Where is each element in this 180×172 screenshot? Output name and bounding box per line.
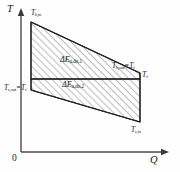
x-axis-label: Q (150, 155, 157, 166)
label-exergy-lower-sub: u,dis,2 (72, 83, 84, 89)
label-cold-outlet-eq-sub: f (25, 87, 26, 92)
label-exergy-upper-sub: u,dis,1 (70, 58, 82, 64)
label-exergy-lower-delta: ΔE (62, 80, 72, 89)
label-hot-outlet-equals: =T (124, 61, 133, 70)
y-axis (18, 8, 24, 152)
t-q-diagram: T Q 0 Th,in Th,out=Tf Tf Tc,out=Tf Tc,in… (0, 0, 180, 172)
y-axis-label: T (7, 4, 13, 15)
label-cold-outlet-sub: c,out (8, 87, 16, 92)
label-tf-right-sub: f (146, 74, 147, 79)
label-cold-outlet-temperature: Tc,out=Tf (4, 84, 26, 93)
label-hot-outlet-temperature: Th,out=Tf (112, 62, 135, 71)
label-hot-inlet-temperature: Th,in (31, 9, 41, 18)
label-cold-outlet-equals: =T (16, 83, 25, 92)
x-axis (21, 149, 169, 155)
label-exergy-destruction-lower: ΔEu,dis,2 (62, 81, 84, 89)
origin-label: 0 (12, 154, 17, 164)
label-hot-outlet-eq-sub: f (133, 65, 134, 70)
region-delta-e-lower (31, 79, 140, 122)
label-cold-inlet-temperature: Tc,in (131, 126, 141, 135)
label-exergy-destruction-upper: ΔEu,dis,1 (60, 56, 82, 64)
label-cold-inlet-sub: c,in (135, 129, 141, 134)
label-exergy-upper-delta: ΔE (60, 55, 70, 64)
label-hot-inlet-sub: h,in (35, 12, 41, 17)
diagram-canvas (0, 0, 180, 172)
label-tf-right: Tf (142, 71, 148, 80)
